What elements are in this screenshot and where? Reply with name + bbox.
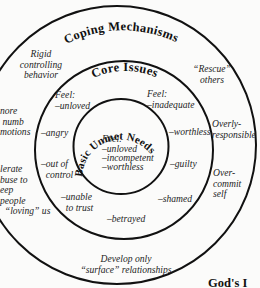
core-worthless: –worthless [169, 127, 211, 138]
core-issues-title: Core Issues [89, 60, 160, 81]
core-unable-to-trust: –unable to trust [61, 192, 93, 213]
coping-rigid-controlling: Rigid controlling behavior [16, 49, 66, 81]
coping-surface-relationships: Develop only “surface” relationships [80, 254, 172, 275]
coping-rescue-others: “Rescue” others [190, 64, 234, 85]
core-guilty: –guilty [170, 159, 197, 170]
coping-mechanisms-title: Coping Mechanisms [62, 19, 181, 46]
coping-overly-responsible: Overly- responsible [212, 119, 256, 140]
gods-footer-text: God's I [208, 276, 247, 288]
coping-tolerate-abuse: lerate buse to eep people “loving” us [0, 164, 50, 217]
core-feel-unloved: Feel: –unloved [55, 90, 90, 111]
coping-ignore-numb-emotions: nore numb motions [0, 106, 30, 138]
core-shamed: –shamed [158, 194, 192, 205]
core-angry: –angry [41, 128, 68, 139]
coping-overcommit-self: Over- commit self [213, 168, 241, 200]
inner-need-worthless: –worthless [102, 162, 144, 173]
core-betrayed: –betrayed [107, 214, 145, 225]
core-feel-inadequate: Feel: –inadequate [147, 89, 194, 110]
